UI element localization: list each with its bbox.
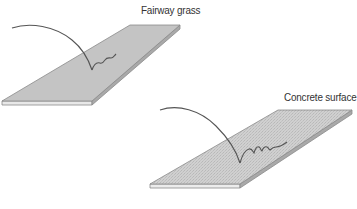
concrete-slab-front-edge bbox=[150, 184, 240, 188]
fairway-grass-label: Fairway grass bbox=[141, 4, 200, 16]
concrete-surface-label: Concrete surface bbox=[284, 91, 357, 103]
fairway-slab-front-edge bbox=[2, 101, 92, 105]
fairway-slab-top bbox=[2, 25, 180, 101]
concrete-slab-top bbox=[150, 110, 352, 184]
fairway-slab bbox=[2, 25, 180, 105]
